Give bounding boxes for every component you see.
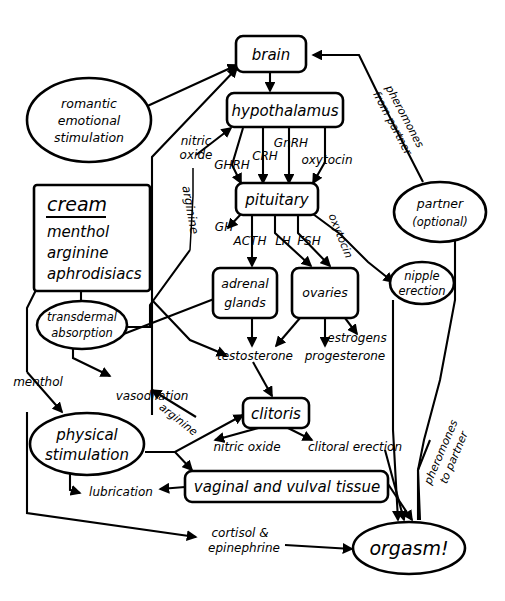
node-partner[interactable]: partner (optional) [394, 182, 486, 242]
label-menthol: menthol [13, 375, 63, 389]
physical-ellipse [30, 413, 144, 475]
label-pheromones-to-partner: pheromones to partner [421, 418, 473, 493]
label-acth: ACTH [233, 234, 267, 248]
hypothalamus-label: hypothalamus [232, 102, 339, 120]
node-hypothalamus[interactable]: hypothalamus [227, 93, 343, 127]
partner-line1: partner [416, 196, 464, 211]
label-arginine-vertical: arginine [179, 184, 201, 235]
partner-line2: (optional) [412, 215, 468, 229]
node-adrenal-glands[interactable]: adrenal glands [213, 268, 277, 318]
nipple-line1: nipple [404, 269, 439, 283]
cream-item-1: arginine [47, 244, 108, 262]
node-orgasm[interactable]: orgasm! [353, 522, 465, 574]
cream-title: cream [47, 193, 107, 215]
edge-testosterone-to-clitoris [253, 362, 272, 396]
label-estrogens: estrogens [327, 331, 386, 345]
node-vaginal-vulval-tissue[interactable]: vaginal and vulval tissue [185, 471, 388, 502]
label-crh: CRH [252, 149, 278, 163]
node-nipple-erection[interactable]: nipple erection [390, 262, 454, 304]
node-brain[interactable]: brain [236, 36, 306, 72]
label-testosterone: testosterone [217, 349, 293, 363]
pituitary-label: pituitary [244, 191, 309, 209]
label-nitric-oxide-top-1: nitric [181, 134, 212, 148]
edge-physical-to-brain [152, 68, 237, 415]
romantic-line1: romantic [61, 96, 117, 111]
label-nitric-oxide-top-2: oxide [180, 148, 213, 162]
node-transdermal-absorption[interactable]: transdermal absorption [37, 301, 127, 349]
edge-physical-to-lubrication [70, 474, 80, 493]
arginine-vertical-text: arginine [179, 184, 201, 235]
node-physical-stimulation[interactable]: physical stimulation [30, 413, 144, 475]
label-ghrh: GHRH [214, 158, 250, 172]
vaginal-label: vaginal and vulval tissue [194, 478, 380, 496]
nipple-line2: erection [398, 284, 445, 298]
label-clitoral-erection: clitoral erection [308, 440, 402, 454]
edge-ovaries-to-testosterone [276, 318, 300, 346]
label-cortisol-2: epinephrine [208, 541, 280, 555]
edge-cream-to-menthol [27, 290, 36, 372]
label-oxytocin-pituitary: oxytocin [326, 212, 356, 260]
label-lubrication: lubrication [89, 485, 153, 499]
transdermal-line2: absorption [51, 326, 112, 340]
node-ovaries[interactable]: ovaries [292, 268, 358, 318]
flow-diagram: brain romantic emotional stimulation hyp… [0, 0, 505, 601]
label-lh: LH [275, 234, 291, 248]
romantic-line2: emotional [58, 113, 121, 128]
romantic-line3: stimulation [54, 130, 124, 145]
ovaries-label: ovaries [302, 285, 348, 300]
label-pheromones-from-partner: pheromones from partner [370, 82, 428, 158]
label-fsh: FSH [297, 234, 321, 248]
label-cortisol-1: cortisol & [211, 526, 268, 540]
cream-item-0: menthol [47, 223, 110, 241]
adrenal-line1: adrenal [221, 276, 269, 291]
cream-item-2: aphrodisiacs [47, 265, 142, 283]
clitoris-label: clitoris [251, 405, 301, 423]
edge-vaginal-to-orgasm [388, 484, 412, 520]
diagram-canvas: brain romantic emotional stimulation hyp… [0, 0, 505, 601]
transdermal-line1: transdermal [47, 310, 118, 324]
label-progesterone: progesterone [304, 349, 386, 363]
orgasm-label: orgasm! [369, 537, 448, 559]
edge-physical-to-vaginal [145, 452, 192, 470]
node-cream[interactable]: cream menthol arginine aphrodisiacs [34, 185, 150, 291]
label-vasodilation: vasodilation [116, 389, 189, 403]
label-gh: GH [215, 220, 233, 234]
adrenal-line2: glands [224, 295, 266, 310]
node-clitoris[interactable]: clitoris [243, 398, 309, 428]
edge-vaginal-to-lubrication [160, 487, 185, 489]
edge-ghrh [232, 128, 243, 183]
edge-romantic-to-brain [143, 65, 237, 108]
brain-label: brain [252, 46, 291, 64]
label-gnrh: GnRH [274, 136, 308, 150]
label-nitric-oxide-clitoris: nitric oxide [213, 440, 280, 454]
edge-nipple-to-orgasm [393, 300, 398, 520]
node-romantic-emotional-stimulation[interactable]: romantic emotional stimulation [27, 78, 151, 162]
physical-line2: stimulation [45, 446, 129, 464]
node-pituitary[interactable]: pituitary [236, 183, 318, 215]
oxytocin-pituitary-text: oxytocin [326, 212, 356, 260]
label-oxytocin-hypothalamus: oxytocin [301, 153, 352, 167]
partner-ellipse [394, 182, 486, 242]
edge-cortisol-to-orgasm [285, 545, 352, 549]
physical-line1: physical [55, 426, 118, 444]
